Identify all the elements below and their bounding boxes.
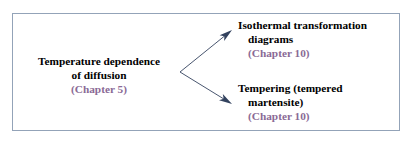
- node-tempering-tempered-martensite: Tempering (tempered martensite) (Chapter…: [238, 81, 404, 124]
- node-source-line-2: of diffusion: [16, 68, 182, 82]
- node-isothermal-transformation-diagrams: Isothermal transformation diagrams (Chap…: [238, 18, 404, 61]
- node-source-chapter-label: (Chapter 5): [16, 82, 182, 96]
- node-temperature-dependence-of-diffusion: Temperature dependence of diffusion (Cha…: [16, 54, 182, 97]
- node-target-1-line-2: diagrams: [238, 32, 404, 46]
- node-source-line-1: Temperature dependence: [16, 54, 182, 68]
- node-target-2-chapter-label: (Chapter 10): [238, 109, 404, 123]
- node-target-2-line-1: Tempering (tempered: [238, 81, 404, 95]
- node-target-2-line-2: martensite): [238, 95, 404, 109]
- node-target-1-chapter-label: (Chapter 10): [238, 46, 404, 60]
- diagram-canvas: Temperature dependence of diffusion (Cha…: [0, 0, 413, 143]
- node-target-1-line-1: Isothermal transformation: [238, 18, 404, 32]
